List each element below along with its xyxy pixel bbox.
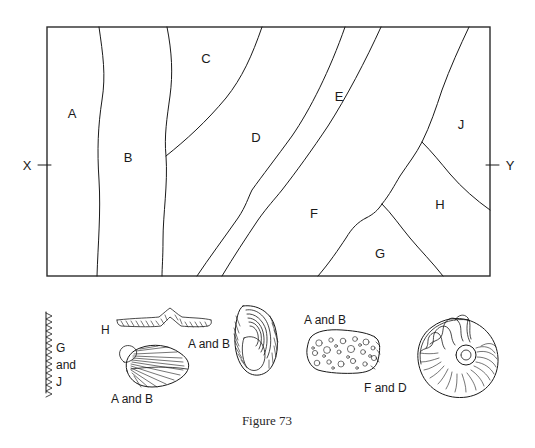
map-unit-label-c: C bbox=[201, 51, 210, 66]
coral-colony-outline bbox=[307, 330, 380, 374]
map-frame bbox=[47, 27, 490, 276]
cross-section-label-x: X bbox=[23, 158, 32, 173]
map-unit-label-a: A bbox=[68, 106, 77, 121]
fossil-brachiopod-radial-ribbed-shell: A and B bbox=[111, 345, 189, 406]
contact-d-e bbox=[197, 27, 345, 276]
figure-container: X Y A B C D E F G H J G bbox=[0, 0, 535, 448]
contact-f-j bbox=[382, 27, 469, 204]
fossil-label-ammonite-f-and-d: F and D bbox=[364, 381, 407, 395]
graptolite-thecae-teeth bbox=[46, 313, 52, 397]
contact-j-h bbox=[422, 142, 490, 210]
contact-fg-node bbox=[366, 204, 382, 218]
zigzag-thecae-hatching bbox=[121, 315, 207, 327]
fossil-label-g-and-j-line3: J bbox=[56, 375, 62, 389]
contact-c-d bbox=[166, 27, 262, 156]
fossil-graptolite-serrated-stipe: G and J bbox=[46, 312, 76, 397]
fossil-ammonite-coiled-shell: F and D bbox=[364, 315, 498, 397]
map-unit-label-h: H bbox=[435, 197, 444, 212]
fossil-label-concentric-a-and-b: A and B bbox=[188, 337, 230, 351]
map-unit-label-e: E bbox=[335, 89, 344, 104]
fossil-graptolite-zigzag-stipe: H bbox=[101, 308, 211, 337]
map-unit-labels: A B C D E F G H J bbox=[68, 51, 465, 261]
zigzag-stipe-upper-edge bbox=[117, 308, 211, 320]
figure-73-svg: X Y A B C D E F G H J G bbox=[0, 0, 535, 448]
ammonite-outer-whorl bbox=[418, 318, 498, 397]
fossil-label-g-and-j-line1: G bbox=[56, 341, 65, 355]
figure-caption: Figure 73 bbox=[242, 413, 292, 428]
fossil-label-brachiopod-a-and-b: A and B bbox=[111, 392, 153, 406]
map-unit-label-d: D bbox=[251, 130, 260, 145]
contact-f-g bbox=[318, 218, 366, 276]
map-unit-label-g: G bbox=[375, 246, 385, 261]
map-unit-label-b: B bbox=[124, 150, 133, 165]
cross-section-label-y: Y bbox=[506, 158, 515, 173]
contact-a-b bbox=[97, 27, 104, 276]
map-unit-label-j: J bbox=[458, 117, 465, 132]
geologic-map: X Y A B C D E F G H J bbox=[23, 27, 515, 276]
fossil-label-coral-a-and-b: A and B bbox=[304, 313, 346, 327]
contact-e-f bbox=[222, 27, 381, 276]
fossil-label-g-and-j-line2: and bbox=[56, 358, 76, 372]
map-unit-label-f: F bbox=[310, 206, 318, 221]
contact-g-h bbox=[382, 204, 443, 276]
geologic-contacts bbox=[97, 27, 490, 276]
fossil-coral-porous-colony: A and B bbox=[304, 313, 380, 373]
fossil-label-h: H bbox=[101, 323, 110, 337]
contact-b-cd bbox=[162, 27, 172, 276]
fossil-brachiopod-concentric-shell: A and B bbox=[188, 306, 278, 375]
